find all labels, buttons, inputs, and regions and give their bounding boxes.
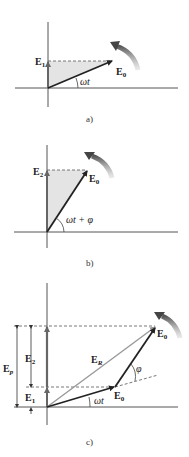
angle-label: ωt [80, 76, 90, 87]
caption-b: b) [86, 258, 94, 268]
caption-c: c) [86, 437, 93, 447]
ep-label: Ep [3, 363, 14, 376]
e0-label: E0 [116, 66, 127, 79]
wt-angle-label: ωt [94, 395, 104, 406]
e1-label: E1 [35, 56, 46, 69]
panel-c: Ep E2 E1 ER E0 E0 ωt φ c) [3, 283, 180, 447]
e0-second-label: E0 [157, 328, 168, 341]
panel-b: E2 E0 ωt + φ b) [14, 145, 178, 268]
phi-angle-label: φ [136, 363, 142, 374]
e0-first-label: E0 [114, 390, 125, 403]
angle-arc [76, 78, 78, 88]
e0-second-vector [115, 328, 155, 387]
angle-arc [56, 218, 64, 232]
panel-a: E1 E0 ωt a) [15, 22, 178, 124]
e0-label: E0 [89, 173, 100, 186]
wt-angle-arc [89, 397, 90, 407]
e2-label: E2 [33, 166, 44, 179]
phi-angle-arc [131, 364, 135, 381]
angle-label: ωt + φ [66, 214, 94, 225]
caption-a: a) [86, 114, 93, 124]
e0-first-vector [47, 387, 114, 407]
er-label: ER [91, 354, 103, 367]
e1-label: E1 [25, 392, 36, 405]
phasor-diagram: E1 E0 ωt a) E2 E0 ωt + φ b) [0, 0, 189, 457]
e2-label: E2 [25, 353, 36, 366]
